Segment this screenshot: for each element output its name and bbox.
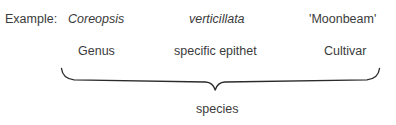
curly-brace-icon <box>0 60 396 96</box>
specific-epithet-term-label: specific epithet <box>174 45 257 58</box>
example-label: Example: <box>5 13 57 26</box>
cultivar-example-text: 'Moonbeam' <box>309 13 376 26</box>
genus-term-label: Genus <box>78 45 115 58</box>
genus-example-text: Coreopsis <box>68 13 124 26</box>
species-group-label: species <box>196 103 238 116</box>
botanical-name-diagram: Example: Coreopsis verticillata 'Moonbea… <box>0 0 396 125</box>
cultivar-term-label: Cultivar <box>324 45 366 58</box>
specific-epithet-example-text: verticillata <box>189 13 245 26</box>
